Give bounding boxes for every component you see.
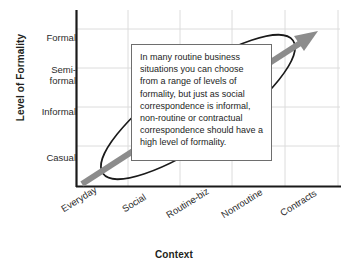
callout-textbox: In many routine business situations you … (131, 44, 272, 161)
y-tick-label-semiformal: Semi- formal (0, 65, 76, 86)
y-tick-label-casual: Casual (0, 152, 76, 163)
y-tick-label-formal: Formal (0, 32, 76, 43)
y-tick-label-semiformal-line2: formal (0, 76, 76, 87)
y-tick-label-informal: Informal (0, 106, 76, 117)
x-axis-title: Context (0, 249, 348, 260)
y-tick-label-semiformal-line1: Semi- (0, 65, 76, 76)
chart-figure: Level of Formality Formal Semi- formal I… (0, 0, 348, 271)
